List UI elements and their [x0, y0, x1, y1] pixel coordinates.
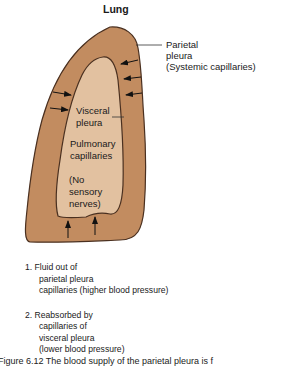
figure-caption: Figure 6.12 The blood supply of the pari…	[0, 356, 213, 366]
step-2: 2. Reabsorbed by capillaries of visceral…	[25, 310, 168, 356]
visceral-pleura-label: Visceral pleura	[76, 105, 110, 129]
step-1: 1. Fluid out of parietal pleura capillar…	[25, 262, 168, 297]
pulmonary-capillaries-label: Pulmonary capillaries	[70, 138, 115, 162]
parietal-pleura-label: Parietal pleura (Systemic capillaries)	[166, 39, 256, 72]
no-sensory-nerves-label: (No sensory nerves)	[69, 174, 102, 210]
process-steps: 1. Fluid out of parietal pleura capillar…	[25, 262, 168, 369]
